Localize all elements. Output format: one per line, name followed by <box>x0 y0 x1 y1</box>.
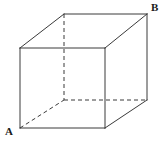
edge-connect-bottom-right <box>105 100 147 128</box>
edge-connect-top-right <box>105 14 147 48</box>
vertex-label-b: B <box>151 2 158 13</box>
vertex-label-a: A <box>5 126 13 137</box>
hidden-edges-group <box>20 14 147 128</box>
visible-edges-group <box>20 14 147 128</box>
cube-figure: A B <box>0 0 165 145</box>
cube-drawing <box>0 0 165 145</box>
edge-connect-bottom-left-hidden <box>20 100 64 128</box>
edge-connect-top-left <box>20 14 64 48</box>
